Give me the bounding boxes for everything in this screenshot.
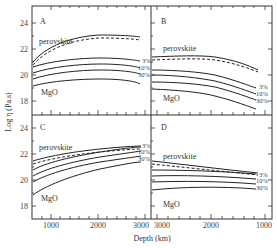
line-10pct (152, 176, 256, 179)
x-tick-2000: 2000 (90, 221, 106, 230)
x-tick-labels: 1000 2000 3000 3000 2000 1000 (43, 221, 272, 230)
x-tick-3000: 3000 (154, 221, 170, 230)
panel-d-curves (152, 161, 258, 190)
line-3pct (33, 58, 140, 67)
panel-label-a: A (40, 17, 46, 26)
y-tick-22: 22 (20, 45, 28, 54)
perovskite-label: perovskite (39, 37, 73, 46)
pct-label-3: 3% (259, 83, 268, 90)
perovskite-label: perovskite (39, 143, 73, 152)
pct-label-10: 10% (256, 177, 269, 184)
x-tick-2000: 2000 (203, 221, 219, 230)
y-tick-18: 18 (20, 202, 28, 211)
mgo-line (152, 187, 256, 190)
line-10pct (33, 64, 140, 73)
line-30pct (33, 70, 140, 79)
line-30pct (152, 181, 256, 184)
panel-c-curves (33, 146, 141, 195)
pct-label-10: 10% (138, 64, 151, 71)
pct-label-30: 30% (256, 184, 269, 191)
x-tick-3000: 3000 (133, 221, 149, 230)
panel-label-c: C (40, 123, 45, 132)
y-axis-title: Log η (Pa.s) (4, 92, 13, 132)
chart-figure: 24 22 20 18 24 22 20 18 1000 2000 3000 3… (0, 0, 277, 248)
mgo-line (33, 162, 141, 195)
x-tick-1000: 1000 (43, 221, 59, 230)
mgo-label: MgO (41, 194, 58, 203)
y-tick-24: 24 (20, 124, 28, 133)
x-axis-title: Depth (km) (133, 234, 170, 243)
y-tick-20: 20 (20, 176, 28, 185)
line-10pct (152, 75, 256, 94)
pct-label-30: 30% (256, 97, 269, 104)
mgo-label: MgO (41, 88, 58, 97)
x-tick-1000: 1000 (256, 221, 272, 230)
perovskite-label: perovskite (163, 44, 197, 53)
y-tick-22: 22 (20, 150, 28, 159)
pct-label-10: 10% (138, 148, 151, 155)
panel-label-b: B (161, 17, 166, 26)
pct-label-10: 10% (256, 90, 269, 97)
y-tick-24: 24 (20, 19, 28, 28)
mgo-label: MgO (163, 94, 180, 103)
y-tick-labels: 24 22 20 18 24 22 20 18 (20, 19, 28, 211)
pct-label-30: 30% (138, 155, 151, 162)
mgo-label: MgO (163, 200, 180, 209)
pct-label-30: 30% (138, 71, 151, 78)
perovskite-line (152, 56, 258, 70)
y-tick-18: 18 (20, 97, 28, 106)
pct-label-3: 3% (142, 57, 151, 64)
y-tick-20: 20 (20, 71, 28, 80)
panel-label-d: D (161, 123, 167, 132)
mgo-line (33, 79, 140, 86)
perovskite-label: perovskite (163, 152, 197, 161)
